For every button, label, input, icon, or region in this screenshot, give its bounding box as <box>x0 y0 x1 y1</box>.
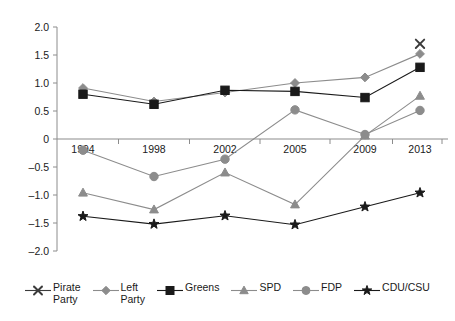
y-tick-label: 0.5 <box>34 105 49 117</box>
data-point-square <box>221 86 229 94</box>
data-point-triangle <box>221 168 230 176</box>
data-point-circle <box>302 287 310 295</box>
data-point-square <box>291 87 299 95</box>
data-point-circle <box>361 130 369 138</box>
data-point-diamond <box>416 49 425 58</box>
data-point-star <box>362 286 372 295</box>
y-tick-label: –2.0 <box>29 245 50 257</box>
legend-marker-circle-icon <box>293 283 319 296</box>
data-point-star <box>220 210 230 220</box>
data-point-star <box>149 219 159 229</box>
legend-marker-x-icon <box>25 283 51 296</box>
series-left-party <box>79 49 425 105</box>
x-tick-label: 2005 <box>283 143 307 155</box>
legend-item-left-party[interactable]: Left Party <box>93 282 146 305</box>
legend-marker-star-icon <box>354 283 380 296</box>
legend-item-fdp[interactable]: FDP <box>293 282 342 296</box>
chart-legend: Pirate PartyLeft PartyGreensSPDFDPCDU/CS… <box>0 282 455 305</box>
y-tick-label: 2.0 <box>34 21 49 33</box>
data-point-square <box>416 63 424 71</box>
data-point-triangle <box>240 286 248 294</box>
data-point-star <box>415 188 425 198</box>
y-tick-label: 1.5 <box>34 49 49 61</box>
legend-item-pirate-party[interactable]: Pirate Party <box>25 282 80 305</box>
legend-label: Pirate Party <box>53 282 80 305</box>
series-pirate-party <box>416 40 424 48</box>
legend-item-spd[interactable]: SPD <box>231 282 281 296</box>
x-tick-label: 2013 <box>408 143 432 155</box>
chart-plot-area: 2.01.51.00.50–0.5–1.0–1.5–2.019941998200… <box>0 0 455 321</box>
legend-label: FDP <box>321 282 342 294</box>
y-tick-label: –1.5 <box>29 217 50 229</box>
legend-marker-square-icon <box>157 283 183 296</box>
data-point-circle <box>416 106 424 114</box>
y-tick-label: 1.0 <box>34 77 49 89</box>
data-point-x <box>416 40 424 48</box>
y-tick-label: –1.0 <box>29 189 50 201</box>
y-tick-label: –0.5 <box>29 161 50 173</box>
data-point-square <box>79 90 87 98</box>
legend-item-cdu-csu[interactable]: CDU/CSU <box>354 282 430 296</box>
legend-label: CDU/CSU <box>382 282 430 294</box>
legend-marker-triangle-icon <box>231 283 257 296</box>
legend-marker-diamond-icon <box>93 283 119 296</box>
legend-label: Left Party <box>121 282 146 305</box>
data-point-circle <box>79 146 87 154</box>
series-greens <box>79 63 424 108</box>
data-point-square <box>166 287 174 295</box>
data-point-triangle <box>79 188 88 196</box>
y-tick-label: 0 <box>43 133 49 145</box>
data-point-diamond <box>101 286 109 294</box>
data-point-star <box>78 211 88 221</box>
data-point-square <box>150 100 158 108</box>
series-cdu-csu <box>78 188 425 229</box>
x-tick-label: 2009 <box>353 143 377 155</box>
data-point-circle <box>291 106 299 114</box>
data-point-square <box>361 93 369 101</box>
x-tick-label: 1998 <box>142 143 166 155</box>
line-chart: 2.01.51.00.50–0.5–1.0–1.5–2.019941998200… <box>0 0 455 321</box>
data-point-circle <box>150 172 158 180</box>
legend-item-greens[interactable]: Greens <box>157 282 219 296</box>
legend-label: Greens <box>185 282 219 294</box>
data-point-diamond <box>291 79 300 88</box>
data-point-circle <box>221 155 229 163</box>
data-point-triangle <box>416 91 425 99</box>
series-line <box>83 193 420 225</box>
data-point-star <box>360 202 370 212</box>
legend-label: SPD <box>259 282 281 294</box>
data-point-diamond <box>361 73 370 82</box>
data-point-star <box>290 219 300 229</box>
